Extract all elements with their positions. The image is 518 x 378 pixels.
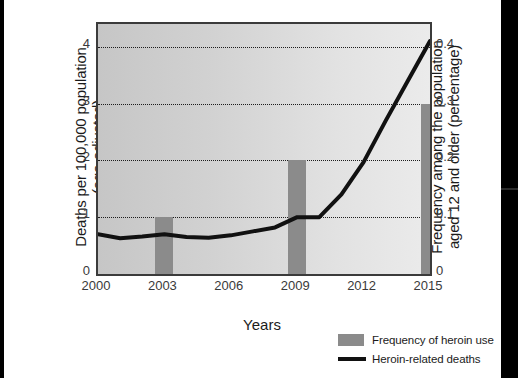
chart-figure: Deaths per 100,000 population (age-adjus… bbox=[0, 0, 518, 378]
legend-item-label: Frequency of heroin use bbox=[372, 334, 494, 346]
legend-swatch bbox=[338, 334, 372, 346]
legend-item-label: Heroin-related deaths bbox=[372, 353, 481, 365]
y-axis-left-tick-label: 3 bbox=[50, 93, 90, 108]
y-axis-right-tick-label: 0.4 bbox=[436, 36, 480, 51]
legend-swatch bbox=[338, 357, 372, 361]
y-axis-left-ticks: 01234 bbox=[46, 22, 90, 272]
x-axis-tick-label: 2009 bbox=[265, 278, 325, 293]
x-axis-ticks: 200020032006200920122015 bbox=[96, 278, 428, 300]
legend-line-swatch-icon bbox=[338, 357, 366, 361]
right-edge-seam bbox=[501, 188, 518, 190]
y-axis-right-tick-label: 0 bbox=[436, 263, 480, 278]
legend-item: Heroin-related deaths bbox=[338, 350, 498, 367]
left-edge-strip bbox=[0, 0, 4, 378]
y-axis-left-tick-label: 1 bbox=[50, 206, 90, 221]
y-axis-left-tick-label: 0 bbox=[50, 263, 90, 278]
x-axis-tick-label: 2015 bbox=[398, 278, 458, 293]
y-axis-right-tick-label: 0.2 bbox=[436, 149, 480, 164]
plot-area bbox=[96, 22, 432, 276]
line-series-heroin-related-deaths bbox=[98, 24, 430, 274]
legend-item: Frequency of heroin use bbox=[338, 331, 498, 348]
x-axis-tick-label: 2006 bbox=[199, 278, 259, 293]
y-axis-left-tick-label: 4 bbox=[50, 36, 90, 51]
y-axis-right-tick-label: 0.3 bbox=[436, 93, 480, 108]
y-axis-right-tick-label: 0.1 bbox=[436, 206, 480, 221]
x-axis-tick-label: 2012 bbox=[332, 278, 392, 293]
y-axis-right-ticks: 00.10.20.30.4 bbox=[436, 22, 480, 272]
x-axis-tick-label: 2000 bbox=[66, 278, 126, 293]
x-axis-tick-label: 2003 bbox=[132, 278, 192, 293]
chart-legend: Frequency of heroin useHeroin-related de… bbox=[338, 331, 498, 369]
legend-bar-swatch-icon bbox=[338, 334, 364, 346]
y-axis-left-tick-label: 2 bbox=[50, 149, 90, 164]
